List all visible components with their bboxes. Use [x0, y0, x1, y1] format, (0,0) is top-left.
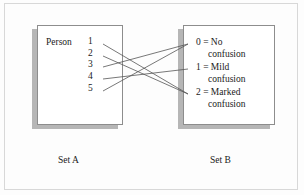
- set-b-item-line2: confusion: [196, 74, 245, 86]
- set-b-item: 2 = Markedconfusion: [196, 87, 245, 110]
- set-b-item-line2: confusion: [196, 99, 245, 111]
- set-a-item-list: 12345: [88, 36, 93, 94]
- set-a-header-label: Person: [46, 37, 72, 47]
- set-a-item: 2: [88, 48, 93, 60]
- set-b-item: 0 = Noconfusion: [196, 37, 245, 60]
- set-b-item-line1: 2 = Marked: [196, 87, 245, 99]
- diagram-canvas: Person 12345 0 = Noconfusion1 = Mildconf…: [0, 0, 304, 195]
- set-b-item-line2: confusion: [196, 49, 245, 61]
- set-a-item: 4: [88, 71, 93, 83]
- set-b-item-line1: 0 = No: [196, 37, 245, 49]
- set-a-item: 3: [88, 59, 93, 71]
- set-b-item-line1: 1 = Mild: [196, 62, 245, 74]
- set-a-caption: Set A: [58, 155, 79, 165]
- set-b-item: 1 = Mildconfusion: [196, 62, 245, 85]
- set-a-item: 1: [88, 36, 93, 48]
- set-a-item: 5: [88, 83, 93, 95]
- set-b-item-list: 0 = Noconfusion1 = Mildconfusion2 = Mark…: [196, 37, 245, 113]
- set-b-caption: Set B: [210, 155, 231, 165]
